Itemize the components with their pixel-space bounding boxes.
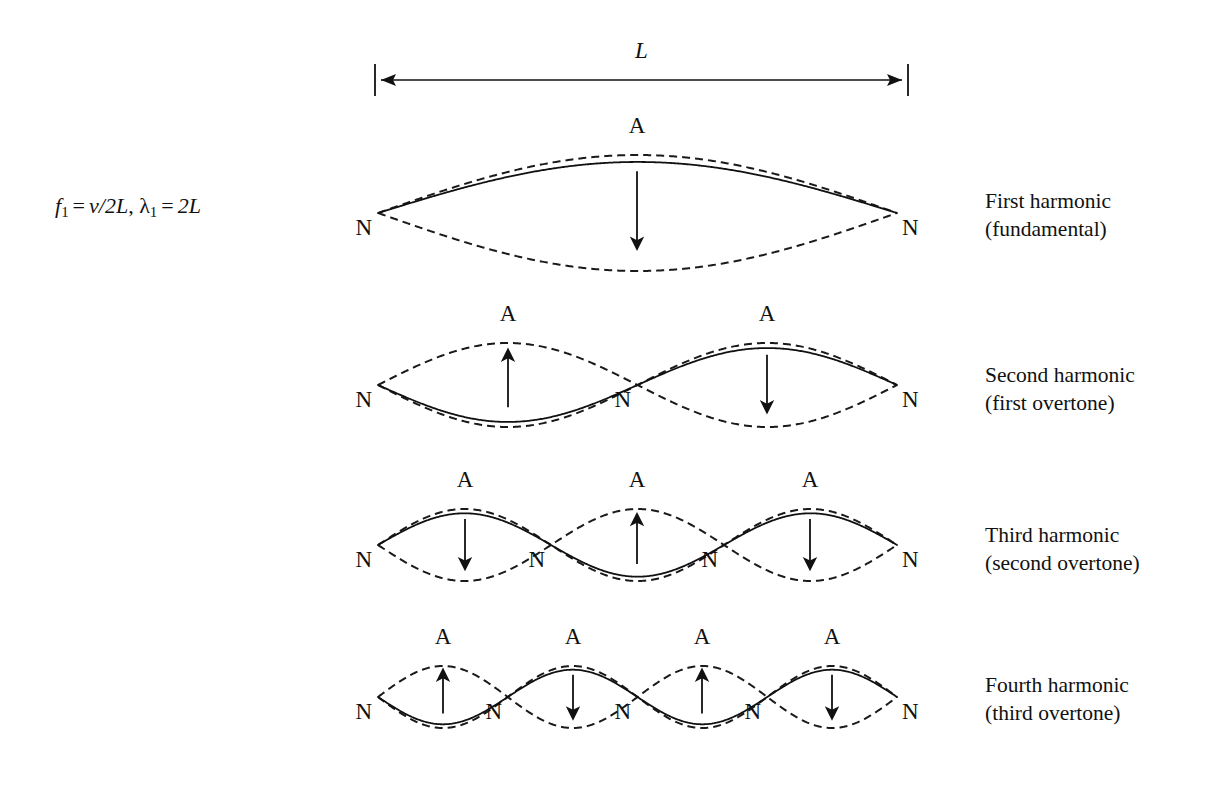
formula-comma: , bbox=[128, 193, 134, 218]
harmonic-subtitle-fourth: (third overtone) bbox=[985, 700, 1129, 728]
harmonic-label-second: Second harmonic (first overtone) bbox=[985, 362, 1135, 418]
standing-wave-harmonics-figure: f1=v/2L, λ1=2L First harmonic (fundament… bbox=[0, 0, 1227, 791]
antinode-label-h2-2: A bbox=[759, 301, 776, 326]
lambda-symbol: λ bbox=[139, 193, 150, 218]
harmonic-label-third: Third harmonic (second overtone) bbox=[985, 522, 1140, 578]
harmonic-waveforms: NNANNNAANNNNAAANNNNNAAAA bbox=[355, 113, 919, 728]
harmonic-subtitle-first: (fundamental) bbox=[985, 216, 1111, 244]
harmonic-subtitle-second: (first overtone) bbox=[985, 390, 1135, 418]
antinode-label-h4-4: A bbox=[824, 624, 841, 649]
antinode-label-h4-2: A bbox=[565, 624, 582, 649]
antinode-label-h2-1: A bbox=[500, 301, 517, 326]
node-label-h3-1: N bbox=[355, 547, 372, 572]
antinode-label-h4-3: A bbox=[694, 624, 711, 649]
harmonic-title-fourth: Fourth harmonic bbox=[985, 673, 1129, 697]
waveform-solid-2 bbox=[378, 348, 897, 422]
antinode-label-h3-1: A bbox=[457, 467, 474, 492]
node-label-h1-1: N bbox=[355, 215, 372, 240]
harmonic-4-group: NNNNNAAAA bbox=[355, 624, 919, 728]
node-label-h2-1: N bbox=[355, 387, 372, 412]
harmonic-subtitle-third: (second overtone) bbox=[985, 550, 1140, 578]
antinode-label-h3-3: A bbox=[802, 467, 819, 492]
harmonic-1-group: NNA bbox=[355, 113, 919, 271]
harmonic-title-second: Second harmonic bbox=[985, 363, 1135, 387]
node-label-h2-3: N bbox=[902, 387, 919, 412]
lambda-value: 2L bbox=[178, 193, 201, 218]
equals-sign-2: = bbox=[157, 193, 177, 218]
frequency-value: v/2L bbox=[89, 193, 128, 218]
waveform-solid-4 bbox=[378, 670, 897, 725]
harmonic-title-first: First harmonic bbox=[985, 189, 1111, 213]
node-label-h3-3: N bbox=[701, 547, 718, 572]
node-label-h4-2: N bbox=[485, 699, 502, 724]
antinode-label-h3-2: A bbox=[629, 467, 646, 492]
harmonic-2-group: NNNAA bbox=[355, 301, 919, 427]
node-label-h3-2: N bbox=[528, 547, 545, 572]
harmonic-label-first: First harmonic (fundamental) bbox=[985, 188, 1111, 244]
node-label-h2-2: N bbox=[614, 387, 631, 412]
node-label-h4-3: N bbox=[614, 699, 631, 724]
dimension-label-L: L bbox=[634, 38, 648, 63]
length-dimension: L bbox=[375, 38, 908, 96]
harmonic-title-third: Third harmonic bbox=[985, 523, 1119, 547]
node-label-h4-1: N bbox=[355, 699, 372, 724]
frequency-subscript: 1 bbox=[61, 204, 68, 220]
harmonic-label-fourth: Fourth harmonic (third overtone) bbox=[985, 672, 1129, 728]
node-label-h4-5: N bbox=[902, 699, 919, 724]
antinode-label-h1-1: A bbox=[629, 113, 646, 138]
node-label-h4-4: N bbox=[744, 699, 761, 724]
harmonic-3-group: NNNNAAA bbox=[355, 467, 919, 581]
equals-sign-1: = bbox=[69, 193, 89, 218]
node-label-h3-4: N bbox=[902, 547, 919, 572]
node-label-h1-2: N bbox=[902, 215, 919, 240]
antinode-label-h4-1: A bbox=[435, 624, 452, 649]
fundamental-formula: f1=v/2L, λ1=2L bbox=[55, 193, 355, 221]
